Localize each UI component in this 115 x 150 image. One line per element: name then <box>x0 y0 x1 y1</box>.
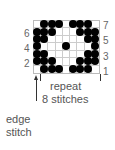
filled-stitch-cell <box>56 21 63 28</box>
filled-stitch-cell <box>85 66 92 73</box>
repeat-bracket-left <box>40 74 41 81</box>
knitting-chart-grid <box>33 20 100 74</box>
edge-stitch-arrow-line <box>36 79 37 101</box>
empty-stitch-cell <box>63 51 70 58</box>
repeat-label: repeat <box>50 80 81 92</box>
row-label-3: 3 <box>103 52 109 62</box>
empty-stitch-cell <box>56 51 63 58</box>
row-label-6: 6 <box>24 29 30 39</box>
edge-stitch-label: stitch <box>6 126 32 138</box>
row-label-4: 4 <box>24 44 30 54</box>
empty-stitch-cell <box>70 43 77 50</box>
filled-stitch-cell <box>92 58 99 65</box>
empty-stitch-cell <box>56 36 63 43</box>
empty-stitch-cell <box>63 28 70 35</box>
empty-stitch-cell <box>48 36 55 43</box>
empty-stitch-cell <box>70 51 77 58</box>
row-label-2: 2 <box>24 59 30 69</box>
edge-label: edge <box>6 113 30 125</box>
filled-stitch-cell <box>41 36 48 43</box>
filled-stitch-cell <box>56 66 63 73</box>
row-label-5: 5 <box>103 36 109 46</box>
filled-stitch-cell <box>48 28 55 35</box>
row-label-1: 1 <box>103 67 109 77</box>
empty-stitch-cell <box>56 28 63 35</box>
empty-stitch-cell <box>70 36 77 43</box>
repeat-bracket-right <box>100 74 101 81</box>
repeat-count-label: 8 stitches <box>42 93 88 105</box>
empty-stitch-cell <box>63 58 70 65</box>
empty-stitch-cell <box>48 43 55 50</box>
empty-stitch-cell <box>77 43 84 50</box>
filled-stitch-cell <box>63 43 70 50</box>
row-label-7: 7 <box>103 21 109 31</box>
empty-stitch-cell <box>92 66 99 73</box>
